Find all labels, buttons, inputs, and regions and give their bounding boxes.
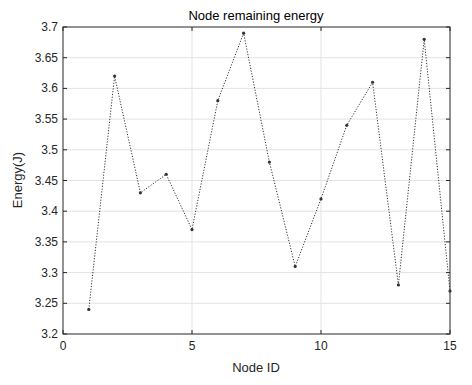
y-tick-label: 3.4 [41,204,58,218]
y-tick-label: 3.55 [35,112,59,126]
data-point-marker [113,75,116,78]
y-tick-label: 3.7 [41,20,58,34]
y-tick-label: 3.3 [41,266,58,280]
y-tick-label: 3.65 [35,51,59,65]
data-point-marker [345,124,348,127]
y-tick-label: 3.6 [41,81,58,95]
y-tick-label: 3.5 [41,143,58,157]
x-tick-label: 0 [60,339,67,353]
y-axis-label: Energy(J) [10,152,25,208]
x-tick-label: 15 [443,339,457,353]
data-point-marker [397,283,400,286]
chart-title: Node remaining energy [188,8,324,23]
y-tick-label: 3.25 [35,296,59,310]
grid-lines [63,27,450,334]
data-point-marker [423,38,426,41]
x-tick-label: 10 [314,339,328,353]
x-axis-ticks: 051015 [60,27,457,353]
data-point-marker [319,197,322,200]
x-tick-label: 5 [189,339,196,353]
data-point-marker [242,32,245,35]
y-tick-label: 3.35 [35,235,59,249]
series-line [89,33,450,309]
y-tick-label: 3.45 [35,174,59,188]
y-tick-label: 3.2 [41,327,58,341]
data-point-marker [371,81,374,84]
data-point-marker [165,173,168,176]
x-axis-label: Node ID [232,360,280,375]
data-point-marker [87,308,90,311]
data-point-marker [139,191,142,194]
data-point-marker [268,160,271,163]
line-chart: Node remaining energy 3.23.253.33.353.43… [0,0,472,385]
data-point-marker [448,289,451,292]
data-series [87,32,451,312]
data-point-marker [294,265,297,268]
data-point-marker [216,99,219,102]
data-point-marker [190,228,193,231]
